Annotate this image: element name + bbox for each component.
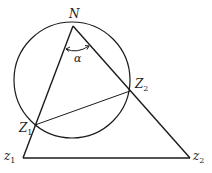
geometry-diagram: N α Z1 Z2 z1 z2: [0, 0, 212, 173]
segment-Z1-Z2: [35, 91, 130, 125]
label-Z2-sub: 2: [143, 84, 148, 93]
segment-N-z2: [73, 26, 190, 158]
circle: [14, 22, 130, 138]
label-z2-sub: 2: [199, 156, 204, 165]
label-Z1-sub: 1: [27, 128, 32, 137]
angle-arrow-left-icon: [66, 47, 70, 52]
label-Z2: Z2: [134, 77, 148, 93]
label-alpha: α: [74, 52, 82, 65]
label-z1: z1: [3, 149, 15, 165]
label-N: N: [68, 7, 80, 21]
label-z1-sub: 1: [10, 156, 15, 165]
label-Z1: Z1: [18, 121, 32, 137]
label-z2: z2: [192, 149, 204, 165]
